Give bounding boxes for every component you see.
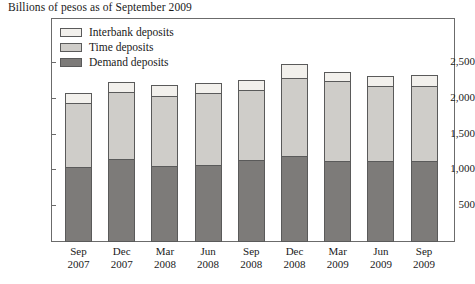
bar-segment-interbank bbox=[411, 75, 438, 86]
legend-item: Time deposits bbox=[60, 40, 174, 54]
x-tick-month: Jun bbox=[184, 245, 232, 258]
bar-stack bbox=[195, 83, 222, 242]
x-tick-year: 2008 bbox=[184, 258, 232, 271]
x-tick-month: Mar bbox=[314, 245, 362, 258]
bar-segment-interbank bbox=[65, 93, 92, 103]
bar-stack bbox=[65, 93, 92, 242]
bar-segment-demand bbox=[411, 161, 438, 242]
x-axis-tick-label: Jun2008 bbox=[184, 245, 232, 270]
bar-segment-demand bbox=[324, 161, 351, 242]
x-tick-month: Jun bbox=[357, 245, 405, 258]
legend-label: Time deposits bbox=[89, 41, 153, 53]
bar-segment-demand bbox=[108, 159, 135, 242]
x-tick-month: Sep bbox=[227, 245, 275, 258]
bar-segment-demand bbox=[367, 161, 394, 242]
legend-swatch-time bbox=[60, 43, 82, 52]
bar-segment-interbank bbox=[195, 83, 222, 94]
bar-segment-time bbox=[151, 96, 178, 166]
legend-label: Demand deposits bbox=[89, 56, 169, 68]
x-axis-tick-label: Sep2009 bbox=[400, 245, 448, 270]
x-tick-year: 2009 bbox=[314, 258, 362, 271]
x-tick-month: Dec bbox=[98, 245, 146, 258]
deposits-stacked-bar-chart: Billions of pesos as of September 2009 2… bbox=[0, 0, 475, 284]
x-tick-month: Dec bbox=[271, 245, 319, 258]
x-tick-year: 2008 bbox=[141, 258, 189, 271]
x-axis-tick-label: Mar2009 bbox=[314, 245, 362, 270]
bar-segment-time bbox=[281, 78, 308, 156]
x-axis-tick-label: Dec2007 bbox=[98, 245, 146, 270]
bar-segment-demand bbox=[65, 167, 92, 242]
x-tick-month: Sep bbox=[400, 245, 448, 258]
x-tick-year: 2008 bbox=[271, 258, 319, 271]
bar-segment-time bbox=[324, 81, 351, 162]
bar-segment-time bbox=[411, 86, 438, 161]
bar-segment-interbank bbox=[367, 76, 394, 86]
x-tick-year: 2008 bbox=[227, 258, 275, 271]
chart-title: Billions of pesos as of September 2009 bbox=[8, 1, 192, 13]
legend-label: Interbank deposits bbox=[89, 26, 174, 38]
bar-segment-interbank bbox=[238, 80, 265, 90]
bar-segment-interbank bbox=[108, 82, 135, 91]
bar-segment-time bbox=[108, 92, 135, 160]
legend-swatch-interbank bbox=[60, 28, 82, 37]
bar-stack bbox=[367, 76, 394, 242]
x-axis-tick-label: Mar2008 bbox=[141, 245, 189, 270]
bar-segment-time bbox=[65, 103, 92, 167]
bar-segment-time bbox=[238, 90, 265, 161]
bar-stack bbox=[324, 72, 351, 242]
x-tick-month: Mar bbox=[141, 245, 189, 258]
x-tick-year: 2007 bbox=[98, 258, 146, 271]
legend-item: Interbank deposits bbox=[60, 25, 174, 39]
bar-segment-demand bbox=[238, 160, 265, 242]
x-axis-tick-label: Jun2009 bbox=[357, 245, 405, 270]
x-tick-year: 2007 bbox=[55, 258, 103, 271]
bar-stack bbox=[411, 75, 438, 242]
bar-segment-demand bbox=[281, 156, 308, 242]
bar-stack bbox=[238, 80, 265, 243]
bar-stack bbox=[151, 85, 178, 242]
x-axis-tick-label: Dec2008 bbox=[271, 245, 319, 270]
bar-segment-interbank bbox=[281, 64, 308, 78]
x-axis-tick-label: Sep2008 bbox=[227, 245, 275, 270]
legend-item: Demand deposits bbox=[60, 55, 174, 69]
x-axis-tick-label: Sep2007 bbox=[55, 245, 103, 270]
bar-segment-interbank bbox=[151, 85, 178, 96]
x-tick-year: 2009 bbox=[357, 258, 405, 271]
x-tick-year: 2009 bbox=[400, 258, 448, 271]
bar-segment-demand bbox=[151, 166, 178, 242]
bar-stack bbox=[281, 64, 308, 242]
chart-legend: Interbank depositsTime depositsDemand de… bbox=[60, 25, 174, 70]
bar-segment-interbank bbox=[324, 72, 351, 81]
bar-segment-demand bbox=[195, 165, 222, 242]
bar-segment-time bbox=[367, 86, 394, 161]
bar-stack bbox=[108, 82, 135, 242]
bar-segment-time bbox=[195, 93, 222, 165]
legend-swatch-demand bbox=[60, 58, 82, 67]
x-tick-month: Sep bbox=[55, 245, 103, 258]
